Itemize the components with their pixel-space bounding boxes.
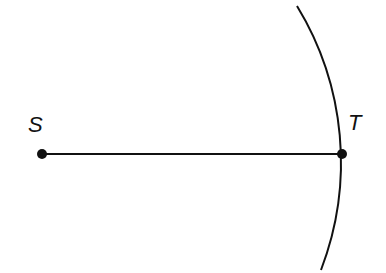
label-s: S (28, 112, 43, 137)
label-t: T (348, 110, 363, 135)
circle-arc (297, 6, 341, 270)
point-s (37, 149, 47, 159)
point-t (337, 149, 347, 159)
diagram-canvas: S T (0, 0, 386, 273)
